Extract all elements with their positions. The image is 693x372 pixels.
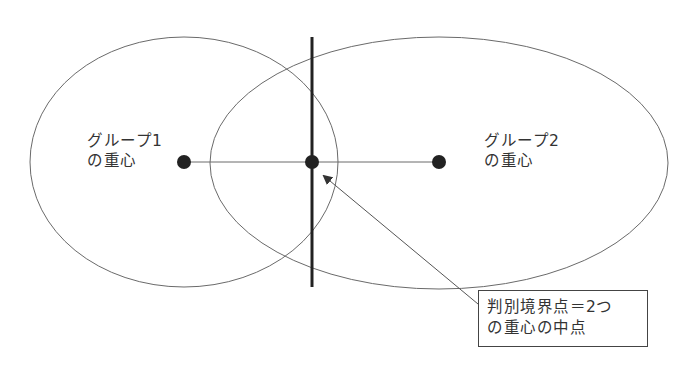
- group2-centroid-label: グループ2 の重心: [484, 131, 559, 171]
- group1-label-line1: グループ1: [87, 131, 162, 151]
- boundary-point-callout: 判別境界点＝2つ の重心の中点: [478, 290, 648, 347]
- group1-centroid-dot: [177, 155, 191, 169]
- group1-centroid-label: グループ1 の重心: [87, 131, 162, 171]
- callout-line2: の重心の中点: [487, 318, 639, 339]
- group2-label-line2: の重心: [484, 151, 559, 171]
- group2-label-line1: グループ2: [484, 131, 559, 151]
- callout-arrow: [324, 176, 478, 304]
- callout-line1: 判別境界点＝2つ: [487, 297, 639, 318]
- group1-label-line2: の重心: [87, 151, 162, 171]
- boundary-midpoint-dot: [305, 155, 319, 169]
- group2-centroid-dot: [432, 155, 446, 169]
